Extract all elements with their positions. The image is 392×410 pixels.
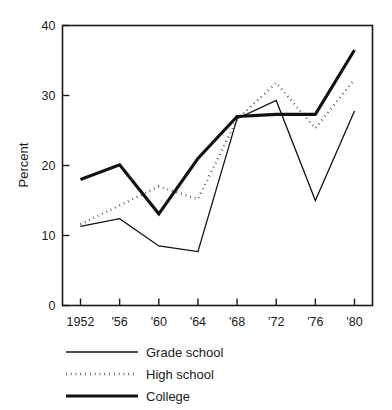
y-tick-label-10: 10	[42, 229, 56, 243]
legend-label-high-school: High school	[146, 367, 214, 382]
y-tick-label-30: 30	[42, 89, 56, 103]
y-tick-label-20: 20	[42, 159, 56, 173]
x-tick-label-1980: '80	[346, 315, 362, 329]
legend-label-grade-school: Grade school	[146, 345, 223, 360]
x-tick-label-1972: '72	[268, 315, 284, 329]
y-tick-label-0: 0	[49, 299, 56, 313]
legend-label-college: College	[146, 389, 190, 404]
x-tick-label-1952: 1952	[67, 315, 95, 329]
x-tick-label-1956: '56	[111, 315, 127, 329]
x-tick-label-1976: '76	[307, 315, 323, 329]
line-chart: 010203040 1952'56'60'64'68'72'76'80 Perc…	[0, 0, 392, 410]
y-tick-label-40: 40	[42, 19, 56, 33]
chart-canvas: 010203040 1952'56'60'64'68'72'76'80 Perc…	[0, 0, 392, 410]
x-tick-label-1960: '60	[151, 315, 167, 329]
x-tick-label-1968: '68	[229, 315, 245, 329]
y-axis-title: Percent	[16, 142, 31, 187]
x-tick-label-1964: '64	[190, 315, 206, 329]
